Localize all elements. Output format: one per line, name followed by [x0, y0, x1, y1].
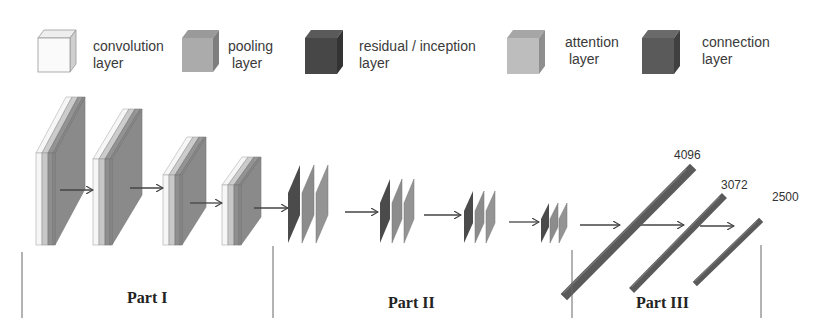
- legend-label-residual: residual / inception layer: [359, 38, 476, 72]
- connection-cube-icon: [642, 30, 680, 74]
- fc-layer-bar-3: [697, 222, 759, 282]
- pool-layer-slab: [392, 179, 402, 243]
- part1-block-4: [222, 157, 261, 245]
- part2-block-3: [464, 191, 495, 243]
- residual-cube-icon: [305, 30, 343, 74]
- pool-layer-slab: [559, 203, 567, 243]
- part-label-2: Part II: [388, 294, 435, 312]
- pool-layer-slab: [550, 203, 558, 243]
- fc-units-label-1: 4096: [674, 148, 701, 162]
- part1-block-2: [93, 109, 142, 245]
- pooling-cube-icon: [182, 30, 219, 72]
- part1-block-3: [163, 137, 206, 245]
- pool-layer-slab: [302, 165, 314, 243]
- pool-layer-slab: [486, 191, 495, 243]
- fc-units-label-3: 2500: [772, 190, 799, 204]
- part2-block-2: [380, 179, 414, 243]
- residual-layer-slab: [380, 179, 390, 243]
- attention-cube-icon: [507, 30, 545, 74]
- legend-label-convolution: convolution layer: [93, 38, 164, 72]
- part1-block-1: [36, 97, 85, 245]
- pool-layer-slab: [316, 165, 328, 243]
- network-layers: [36, 97, 567, 245]
- residual-layer-slab: [464, 191, 473, 243]
- part2-block-4: [541, 203, 567, 243]
- part-label-3: Part III: [636, 294, 689, 312]
- legend-label-attention: attention layer: [565, 34, 619, 68]
- pool-layer-slab: [404, 179, 414, 243]
- fc-layer-bar-1: [567, 170, 690, 294]
- cnn-architecture-diagram: convolution layer pooling layer residual…: [0, 0, 827, 333]
- part-label-1: Part I: [127, 289, 167, 307]
- legend-label-connection: connection layer: [702, 34, 770, 68]
- fc-layer-highlight: [564, 169, 687, 293]
- pool-layer-slab: [475, 191, 484, 243]
- legend-label-pooling: pooling layer: [228, 38, 273, 72]
- residual-layer-slab: [541, 203, 549, 243]
- fc-units-label-2: 3072: [721, 178, 748, 192]
- convolution-cube-icon: [38, 30, 76, 72]
- part2-block-1: [288, 165, 328, 243]
- residual-layer-slab: [288, 165, 300, 243]
- fc-layer-highlight: [695, 221, 757, 281]
